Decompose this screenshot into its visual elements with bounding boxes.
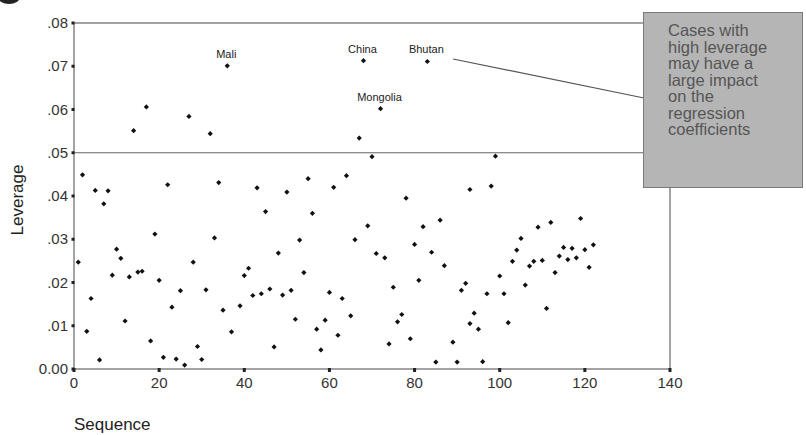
y-tick-label: .04 xyxy=(47,187,68,204)
data-point xyxy=(335,333,340,338)
callout-text: Cases with high leverage may have a larg… xyxy=(668,22,794,138)
data-point xyxy=(578,216,583,221)
x-tick-label: 20 xyxy=(151,374,168,391)
data-point xyxy=(293,317,298,322)
data-points xyxy=(76,58,596,368)
data-point xyxy=(314,327,319,332)
y-axis: 0.00.01.02.03.04.05.06.07.08 xyxy=(39,14,75,377)
data-point xyxy=(199,357,204,362)
data-point xyxy=(569,246,574,251)
data-point xyxy=(467,187,472,192)
data-point xyxy=(489,183,494,188)
data-point xyxy=(552,270,557,275)
data-point xyxy=(501,291,506,296)
data-point xyxy=(306,176,311,181)
plot-border xyxy=(74,23,670,369)
data-point xyxy=(412,242,417,247)
data-point xyxy=(463,281,468,286)
data-point xyxy=(565,257,570,262)
data-point xyxy=(523,282,528,287)
data-point xyxy=(459,288,464,293)
data-point xyxy=(254,185,259,190)
data-point xyxy=(122,318,127,323)
data-point xyxy=(84,329,89,334)
data-point xyxy=(557,254,562,259)
data-point xyxy=(93,188,98,193)
x-tick-mark xyxy=(158,368,161,372)
y-tick-mark xyxy=(72,22,75,25)
y-tick-label: .06 xyxy=(47,101,68,118)
x-tick-label: 140 xyxy=(657,374,682,391)
data-point xyxy=(220,308,225,313)
y-axis-title: Leverage xyxy=(8,165,27,236)
data-point xyxy=(208,131,213,136)
data-point xyxy=(369,154,374,159)
data-point xyxy=(561,245,566,250)
data-point xyxy=(467,321,472,326)
data-point xyxy=(105,188,110,193)
callout-leader-line xyxy=(453,59,644,98)
data-point xyxy=(484,291,489,296)
y-tick-mark xyxy=(72,238,75,241)
data-point xyxy=(344,173,349,178)
data-point xyxy=(591,242,596,247)
data-point xyxy=(301,270,306,275)
data-point xyxy=(195,344,200,349)
data-point xyxy=(191,260,196,265)
x-axis: 020406080100120140 xyxy=(70,368,683,391)
point-label-mongolia: Mongolia xyxy=(357,91,403,103)
data-point xyxy=(408,336,413,341)
x-tick-label: 120 xyxy=(572,374,597,391)
data-point xyxy=(144,104,149,109)
data-point xyxy=(271,344,276,349)
point-label-china: China xyxy=(348,43,378,55)
data-point xyxy=(395,319,400,324)
data-point xyxy=(378,106,383,111)
x-tick-label: 0 xyxy=(70,374,78,391)
data-point xyxy=(518,236,523,241)
data-point xyxy=(174,356,179,361)
data-point xyxy=(374,251,379,256)
y-tick-label: .02 xyxy=(47,274,68,291)
data-point xyxy=(203,287,208,292)
x-tick-mark xyxy=(498,368,501,372)
x-tick-label: 100 xyxy=(487,374,512,391)
x-tick-label: 60 xyxy=(321,374,338,391)
high-leverage-callout: Cases with high leverage may have a larg… xyxy=(643,12,803,188)
data-point xyxy=(182,363,187,368)
data-point xyxy=(403,196,408,201)
data-point xyxy=(587,265,592,270)
x-tick-mark xyxy=(73,368,76,372)
data-point xyxy=(131,128,136,133)
data-point xyxy=(186,114,191,119)
data-point xyxy=(169,305,174,310)
data-point xyxy=(118,256,123,261)
data-point xyxy=(497,273,502,278)
data-point xyxy=(246,266,251,271)
x-tick-mark xyxy=(328,368,331,372)
data-point xyxy=(540,258,545,263)
data-point xyxy=(297,238,302,243)
data-point xyxy=(455,359,460,364)
data-point xyxy=(535,225,540,230)
y-tick-mark xyxy=(72,151,75,154)
data-point xyxy=(242,273,247,278)
data-point xyxy=(506,320,511,325)
data-point xyxy=(318,347,323,352)
data-point xyxy=(382,255,387,260)
data-point xyxy=(425,59,430,64)
data-point xyxy=(510,259,515,264)
data-point xyxy=(480,359,485,364)
data-point xyxy=(157,278,162,283)
data-point xyxy=(323,318,328,323)
data-point xyxy=(574,255,579,260)
data-point xyxy=(472,311,477,316)
data-point xyxy=(348,313,353,318)
point-label-mali: Mali xyxy=(216,48,236,60)
data-point xyxy=(135,270,140,275)
data-point xyxy=(476,327,481,332)
x-tick-mark xyxy=(583,368,586,372)
data-point xyxy=(97,357,102,362)
data-point xyxy=(284,190,289,195)
data-point xyxy=(259,291,264,296)
